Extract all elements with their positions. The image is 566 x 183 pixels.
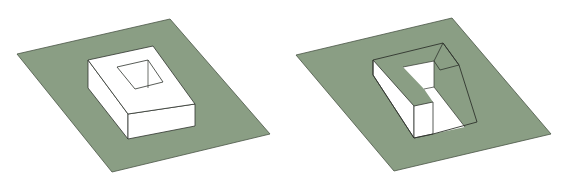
- isometric-solids-figure: [0, 0, 566, 183]
- ground-plane: [296, 18, 551, 171]
- diagram-stage: [0, 0, 566, 183]
- left-arm-front-face: [414, 102, 433, 138]
- panel-box-with-hole: [17, 19, 270, 172]
- panel-u-shaped-solid: [296, 18, 551, 171]
